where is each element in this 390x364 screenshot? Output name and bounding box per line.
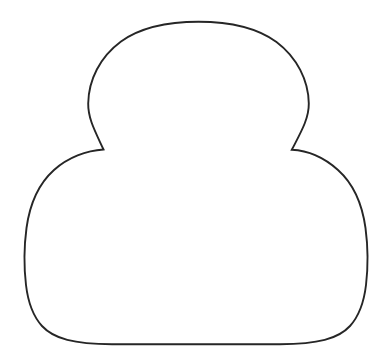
drawing-canvas — [0, 0, 390, 364]
canvas-background — [0, 0, 390, 364]
head-and-body-outline-figure — [0, 0, 390, 364]
